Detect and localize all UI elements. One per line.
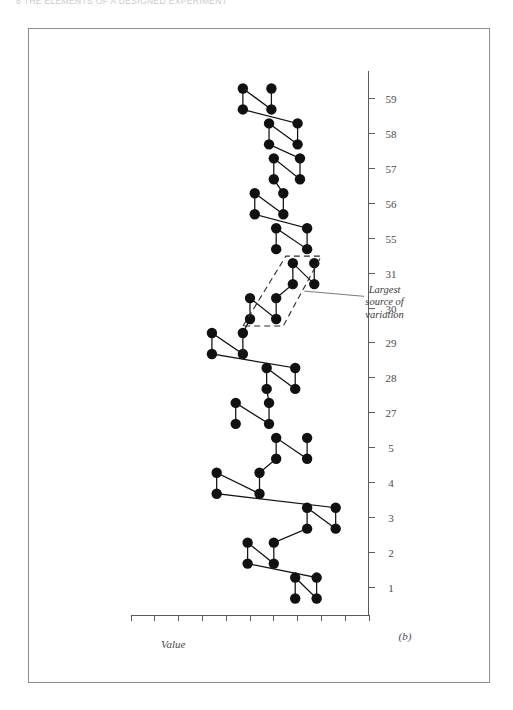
- data-point: [302, 453, 312, 463]
- data-point: [269, 537, 279, 547]
- run-line: [212, 263, 314, 424]
- data-point: [271, 243, 281, 253]
- data-point: [264, 118, 274, 128]
- running-head: 8 THE ELEMENTS OF A DESIGNED EXPERIMENT: [16, 0, 227, 6]
- data-point: [245, 292, 255, 302]
- data-point: [271, 223, 281, 233]
- data-point: [254, 488, 264, 498]
- data-point: [264, 418, 274, 428]
- data-point: [211, 488, 221, 498]
- data-point: [264, 139, 274, 149]
- series-overlay: [109, 56, 409, 656]
- figure-frame: Value (b) 1234527282930315556575859 Larg…: [28, 28, 490, 683]
- data-point: [302, 432, 312, 442]
- data-point: [288, 257, 298, 267]
- data-point: [302, 223, 312, 233]
- data-point: [250, 209, 260, 219]
- data-point: [292, 139, 302, 149]
- data-point: [271, 453, 281, 463]
- data-point: [290, 593, 300, 603]
- data-point: [264, 397, 274, 407]
- data-point: [238, 83, 248, 93]
- data-point: [271, 313, 281, 323]
- data-point: [242, 537, 252, 547]
- data-point: [266, 104, 276, 114]
- data-point: [292, 118, 302, 128]
- annotation-label: Largest source of variation: [366, 284, 405, 321]
- data-point: [295, 174, 305, 184]
- data-point: [254, 467, 264, 477]
- data-point: [238, 327, 248, 337]
- data-point: [330, 502, 340, 512]
- plot-area: Value (b) 1234527282930315556575859 Larg…: [109, 56, 409, 656]
- data-point: [288, 278, 298, 288]
- data-point: [330, 523, 340, 533]
- data-point: [211, 467, 221, 477]
- data-point: [269, 153, 279, 163]
- data-point: [238, 348, 248, 358]
- data-point: [238, 104, 248, 114]
- data-point: [269, 558, 279, 568]
- data-point: [302, 523, 312, 533]
- data-point: [290, 362, 300, 372]
- data-point: [242, 558, 252, 568]
- data-point: [271, 292, 281, 302]
- data-point: [266, 83, 276, 93]
- data-point: [311, 572, 321, 582]
- data-point: [207, 327, 217, 337]
- data-point: [278, 188, 288, 198]
- data-point: [295, 153, 305, 163]
- data-point: [231, 397, 241, 407]
- data-point: [290, 383, 300, 393]
- data-point: [278, 209, 288, 219]
- rotated-plot-wrapper: Value (b) 1234527282930315556575859 Larg…: [109, 56, 409, 656]
- data-point: [207, 348, 217, 358]
- annotation-lasso: [243, 256, 321, 326]
- data-point: [269, 174, 279, 184]
- data-point: [231, 418, 241, 428]
- data-point: [271, 432, 281, 442]
- data-point: [250, 188, 260, 198]
- data-point: [261, 383, 271, 393]
- annotation-leader-line: [304, 291, 364, 296]
- data-point: [302, 243, 312, 253]
